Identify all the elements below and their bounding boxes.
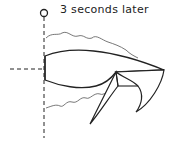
- folded-flap-right: [116, 70, 164, 112]
- diagram-caption: 3 seconds later: [60, 3, 149, 16]
- diagram-drawing: [0, 0, 172, 142]
- origin-marker-icon: [41, 10, 48, 17]
- diagram-canvas: 3 seconds later: [0, 0, 172, 142]
